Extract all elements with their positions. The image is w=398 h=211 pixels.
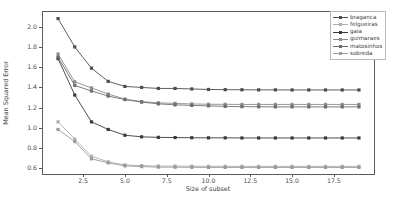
legend-item-sobreda[interactable]: sobreda	[333, 50, 382, 57]
figure: Mean Squared Error Size of subset 0.60.8…	[0, 0, 398, 211]
data-point-marker	[240, 88, 243, 91]
data-point-marker	[173, 103, 176, 106]
legend-item-braganca[interactable]: braganca	[333, 15, 382, 22]
y-tick-label: 1.4	[27, 84, 37, 90]
legend-swatch-icon	[333, 15, 348, 21]
data-point-marker	[107, 128, 110, 131]
y-tick-label: 0.8	[27, 145, 37, 151]
legend-marker-icon	[339, 31, 342, 34]
data-point-marker	[123, 164, 126, 167]
legend-swatch-icon	[333, 51, 348, 57]
x-tick-label: 5.0	[120, 178, 130, 184]
data-point-marker	[357, 166, 360, 169]
data-point-marker	[257, 136, 260, 139]
x-tick-label: 10.0	[202, 178, 216, 184]
data-point-marker	[73, 45, 76, 48]
data-point-marker	[274, 136, 277, 139]
series-line	[58, 59, 359, 138]
data-point-marker	[90, 67, 93, 70]
legend-swatch-icon	[333, 43, 348, 49]
legend-item-guimaraes[interactable]: guimaraes	[333, 36, 382, 43]
legend-label: sobreda	[350, 51, 372, 57]
data-point-marker	[307, 166, 310, 169]
data-point-marker	[324, 136, 327, 139]
data-point-marker	[290, 166, 293, 169]
data-point-marker	[107, 161, 110, 164]
data-point-marker	[123, 85, 126, 88]
x-tick-label: 7.5	[162, 178, 172, 184]
data-point-marker	[224, 136, 227, 139]
series-guimaraes	[56, 52, 360, 106]
data-point-marker	[140, 86, 143, 89]
legend-swatch-icon	[333, 22, 348, 28]
data-point-marker	[341, 166, 344, 169]
data-point-marker	[207, 88, 210, 91]
legend-marker-icon	[339, 16, 342, 19]
data-point-marker	[341, 105, 344, 108]
data-point-marker	[173, 166, 176, 169]
data-point-marker	[90, 86, 93, 89]
data-point-marker	[207, 136, 210, 139]
y-tick-label: 0.6	[27, 165, 37, 171]
data-point-marker	[90, 89, 93, 92]
data-point-marker	[140, 101, 143, 104]
data-point-marker	[257, 105, 260, 108]
data-point-marker	[357, 88, 360, 91]
data-point-marker	[157, 136, 160, 139]
data-point-marker	[56, 55, 59, 58]
legend-swatch-icon	[333, 29, 348, 35]
series-line	[58, 129, 359, 167]
legend-label: gaia	[350, 29, 362, 35]
data-point-marker	[357, 105, 360, 108]
x-tick-label: 2.5	[78, 178, 88, 184]
data-point-marker	[357, 136, 360, 139]
data-point-marker	[123, 98, 126, 101]
series-felgueiras	[56, 120, 360, 168]
legend-marker-icon	[339, 23, 342, 26]
legend-label: matosinhos	[350, 44, 382, 50]
data-point-marker	[207, 104, 210, 107]
data-point-marker	[307, 88, 310, 91]
legend-label: felgueiras	[350, 22, 378, 28]
x-tick-label: 17.5	[327, 178, 341, 184]
data-point-marker	[157, 87, 160, 90]
data-point-marker	[224, 88, 227, 91]
data-point-marker	[190, 136, 193, 139]
legend-item-felgueiras[interactable]: felgueiras	[333, 22, 382, 29]
legend[interactable]: bragancafelgueirasgaiaguimaraesmatosinho…	[330, 11, 386, 60]
x-axis-label: Size of subset	[186, 186, 231, 192]
series-braganca	[56, 17, 360, 92]
data-point-marker	[307, 105, 310, 108]
legend-item-gaia[interactable]: gaia	[333, 29, 382, 36]
data-point-marker	[290, 136, 293, 139]
data-point-marker	[341, 88, 344, 91]
data-point-marker	[90, 157, 93, 160]
data-point-marker	[224, 166, 227, 169]
data-point-marker	[341, 136, 344, 139]
series-line	[58, 19, 359, 90]
data-point-marker	[207, 166, 210, 169]
legend-marker-icon	[339, 52, 342, 55]
data-point-marker	[157, 166, 160, 169]
data-point-marker	[290, 105, 293, 108]
data-point-marker	[73, 93, 76, 96]
data-point-marker	[73, 84, 76, 87]
data-point-marker	[240, 105, 243, 108]
data-point-marker	[73, 140, 76, 143]
data-point-marker	[56, 17, 59, 20]
data-point-marker	[257, 166, 260, 169]
legend-swatch-icon	[333, 36, 348, 42]
data-point-marker	[257, 88, 260, 91]
y-tick-label: 2.0	[27, 24, 37, 30]
series-gaia	[56, 57, 360, 140]
legend-marker-icon	[339, 45, 342, 48]
series-sobreda	[56, 128, 360, 169]
plot-area	[42, 11, 375, 175]
data-point-marker	[56, 120, 59, 123]
data-point-marker	[290, 88, 293, 91]
y-axis-label: Mean Squared Error	[3, 61, 9, 125]
series-line	[58, 122, 359, 167]
series-line	[58, 54, 359, 104]
y-tick-label: 1.6	[27, 64, 37, 70]
legend-item-matosinhos[interactable]: matosinhos	[333, 43, 382, 50]
